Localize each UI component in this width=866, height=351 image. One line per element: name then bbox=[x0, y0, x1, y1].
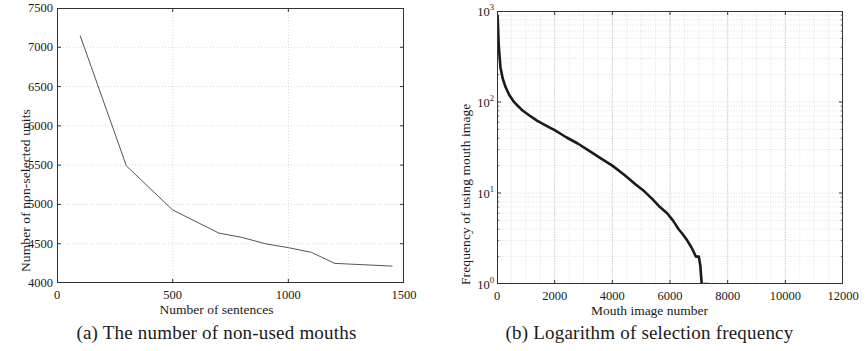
panel-a-caption: (a) The number of non-used mouths bbox=[0, 322, 433, 344]
panel-b: Frequency of using mouth image 020004000… bbox=[433, 0, 866, 351]
panel-a-chart-svg bbox=[57, 8, 404, 283]
x-tick-label: 0 bbox=[494, 289, 500, 304]
x-tick-label: 4000 bbox=[600, 289, 625, 304]
y-tick-label: 7500 bbox=[28, 1, 53, 16]
y-tick-label: 7000 bbox=[28, 40, 53, 55]
x-tick-label: 12000 bbox=[827, 289, 858, 304]
y-tick-label: 103 bbox=[477, 2, 494, 19]
panel-a-plot-area bbox=[57, 8, 404, 283]
panel-b-plot-area bbox=[497, 11, 843, 284]
y-tick-label: 5500 bbox=[28, 158, 53, 173]
y-tick-label: 100 bbox=[477, 275, 494, 292]
x-tick-label: 10000 bbox=[770, 289, 801, 304]
figure-two-panel: Number of non-selected units 05001000150… bbox=[0, 0, 866, 351]
y-tick-label: 4500 bbox=[28, 236, 53, 251]
x-tick-label: 8000 bbox=[715, 289, 740, 304]
y-tick-label: 5000 bbox=[28, 197, 53, 212]
panel-b-caption: (b) Logarithm of selection frequency bbox=[433, 322, 866, 344]
panel-b-y-axis-label: Frequency of using mouth image bbox=[458, 104, 474, 285]
y-tick-label: 6500 bbox=[28, 79, 53, 94]
panel-a-x-axis-label: Number of sentences bbox=[0, 302, 433, 318]
x-tick-label: 1500 bbox=[392, 288, 417, 303]
x-tick-label: 500 bbox=[163, 288, 182, 303]
x-tick-label: 0 bbox=[54, 288, 60, 303]
y-tick-label: 6000 bbox=[28, 118, 53, 133]
y-tick-label: 4000 bbox=[28, 276, 53, 291]
panel-b-chart-svg bbox=[497, 11, 843, 284]
panel-a: Number of non-selected units 05001000150… bbox=[0, 0, 433, 351]
x-tick-label: 2000 bbox=[542, 289, 567, 304]
x-tick-label: 6000 bbox=[658, 289, 683, 304]
x-tick-label: 1000 bbox=[276, 288, 301, 303]
y-tick-label: 102 bbox=[477, 93, 494, 110]
y-tick-label: 101 bbox=[477, 184, 494, 201]
panel-b-x-axis-label: Mouth image number bbox=[433, 303, 866, 319]
